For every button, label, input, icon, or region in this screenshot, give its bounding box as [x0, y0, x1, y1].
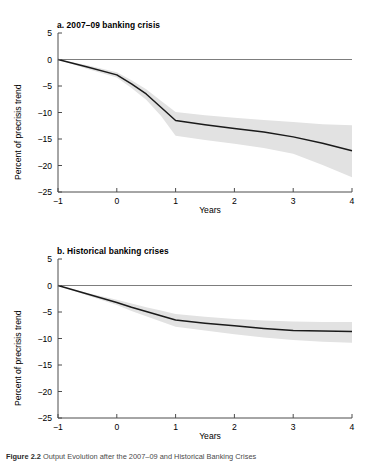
panel-b-x-axis-label: Years: [24, 431, 372, 441]
x-tick-label: 3: [291, 196, 296, 206]
chart-panel-a: a. 2007–09 banking crisis Percent of pre…: [0, 0, 372, 228]
y-tick-label: −15: [37, 134, 52, 144]
y-tick-label: −25: [37, 187, 52, 197]
confidence-band: [58, 60, 352, 178]
y-tick-label: 0: [47, 55, 52, 65]
x-tick-label: 2: [232, 196, 237, 206]
figure-output-evolution: a. 2007–09 banking crisis Percent of pre…: [0, 0, 372, 464]
y-tick-label: 0: [47, 281, 52, 291]
x-tick-label: −1: [53, 196, 63, 206]
x-tick-label: 2: [232, 422, 237, 432]
y-tick-label: −20: [37, 387, 52, 397]
chart-panel-b: b. Historical banking crises Percent of …: [0, 228, 372, 453]
y-tick-label: −20: [37, 161, 52, 171]
figure-caption-label: Figure 2.2: [6, 452, 41, 461]
y-tick-label: −5: [42, 81, 52, 91]
x-tick-label: 1: [173, 196, 178, 206]
y-tick-label: −25: [37, 413, 52, 423]
x-tick-label: 4: [350, 422, 355, 432]
x-tick-label: 4: [350, 196, 355, 206]
y-tick-label: −15: [37, 360, 52, 370]
x-tick-label: 0: [114, 422, 119, 432]
figure-caption-text: Output Evolution after the 2007–09 and H…: [43, 452, 256, 461]
x-tick-label: 1: [173, 422, 178, 432]
panel-a-plot: 50−5−10−15−20−25−101234: [0, 26, 372, 206]
y-tick-label: −10: [37, 108, 52, 118]
x-tick-label: 0: [114, 196, 119, 206]
y-tick-label: −10: [37, 334, 52, 344]
x-tick-label: −1: [53, 422, 63, 432]
y-tick-label: 5: [47, 28, 52, 38]
y-tick-label: −5: [42, 307, 52, 317]
panel-b-plot: 50−5−10−15−20−25−101234: [0, 252, 372, 432]
panel-a-x-axis-label: Years: [24, 205, 372, 215]
y-tick-label: 5: [47, 254, 52, 264]
confidence-band: [58, 286, 352, 343]
figure-caption: Figure 2.2 Output Evolution after the 20…: [6, 452, 370, 461]
x-tick-label: 3: [291, 422, 296, 432]
